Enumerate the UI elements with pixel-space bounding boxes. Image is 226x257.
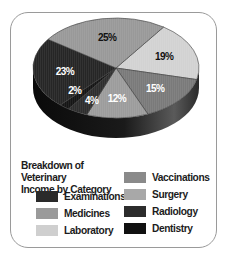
legend-item-vaccinations: Vaccinations xyxy=(124,171,209,183)
slice-label-laboratory: 19% xyxy=(155,51,174,62)
legend-label-dentistry: Dentistry xyxy=(152,223,193,234)
legend-title-line-1: Breakdown of Veterinary xyxy=(21,160,131,184)
legend-label-laboratory: Laboratory xyxy=(64,225,113,236)
slice-label-radiology: 4% xyxy=(85,95,99,106)
legend-label-medicines: Medicines xyxy=(64,208,110,219)
legend-swatch-dentistry xyxy=(124,223,146,234)
slice-label-examinations: 23% xyxy=(56,66,75,77)
legend-swatch-vaccinations xyxy=(124,172,146,183)
legend-label-examinations: Examinations xyxy=(64,191,125,202)
legend-swatch-surgery xyxy=(124,189,146,200)
legend-swatch-radiology xyxy=(124,206,146,217)
legend-label-vaccinations: Vaccinations xyxy=(152,172,209,183)
legend-item-surgery: Surgery xyxy=(124,188,188,200)
legend-item-examinations: Examinations xyxy=(36,190,125,202)
slice-label-surgery: 12% xyxy=(108,93,127,104)
legend-swatch-examinations xyxy=(36,191,58,202)
legend-item-radiology: Radiology xyxy=(124,205,198,217)
legend-item-dentistry: Dentistry xyxy=(124,222,193,234)
legend-label-radiology: Radiology xyxy=(152,206,198,217)
slice-label-dentistry: 2% xyxy=(68,85,82,96)
legend-item-laboratory: Laboratory xyxy=(36,224,113,236)
legend-label-surgery: Surgery xyxy=(152,189,188,200)
legend-swatch-laboratory xyxy=(36,225,58,236)
legend-swatch-medicines xyxy=(36,208,58,219)
legend-item-medicines: Medicines xyxy=(36,207,110,219)
slice-label-vaccinations: 15% xyxy=(146,83,165,94)
pie-chart: 19%15%12%4%2%23%25% xyxy=(0,0,226,257)
slice-label-medicines: 25% xyxy=(98,32,117,43)
